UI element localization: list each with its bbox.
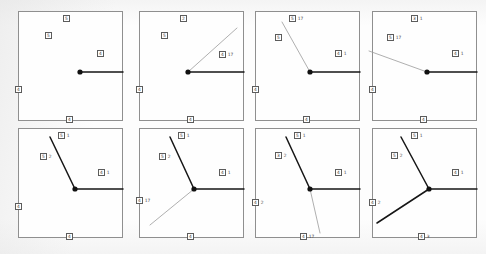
panel-6-label-top-value: 1 [187,133,190,138]
panel-6-label-inner-value: 2 [168,154,171,159]
panel-6-label-top: 51 [178,132,190,139]
panel-8-label-top: 51 [411,132,423,139]
panel-4-label-left: 4 [369,86,376,93]
panel-5-label-left: 4 [15,203,22,210]
panel-2-label-right-value: 17 [228,52,234,57]
panel-4-hub-node[interactable] [424,69,429,74]
panel-8-label-bottom-value: 3 [427,234,430,239]
panel-1-plot [19,12,122,120]
panel-8-hub-node[interactable] [426,186,431,191]
panel-1-label-top: 5 [63,15,70,22]
panel-3[interactable]: 51754144 [255,11,360,121]
panel-6-edge-down-left [150,189,194,225]
panel-5[interactable]: 51524144 [18,128,123,238]
panel-6-label-bottom: 4 [187,233,194,240]
panel-3-edge-up-left [282,22,310,72]
panel-2-label-right-box: 4 [219,51,226,58]
panel-7-label-top-value: 1 [303,133,306,138]
panel-1-label-right: 4 [97,50,104,57]
panel-8-label-inner-value: 2 [400,153,403,158]
panel-8-label-bottom-box: 4 [418,233,425,240]
panel-8-label-right-box: 4 [452,169,459,176]
panel-3-label-inner: 5 [275,34,282,41]
panel-7-label-left-box: 4 [252,199,259,206]
panel-2-plot [140,12,243,120]
panel-2-label-left: 4 [136,86,143,93]
panel-6-edge-up-left [170,137,194,189]
panel-6-label-top-box: 5 [178,132,185,139]
panel-6[interactable]: 5152414174 [139,128,244,238]
panel-1-label-inner-box: 5 [45,32,52,39]
panel-2-label-left-box: 4 [136,86,143,93]
panel-4-label-right-value: 1 [461,51,464,56]
panel-6-label-left-value: 17 [145,198,151,203]
panel-3-label-top-value: 17 [298,16,304,21]
panel-8-edge-down-left [377,189,429,223]
panel-2-label-inner-box: 5 [161,32,168,39]
panel-2-label-right: 417 [219,51,233,58]
panel-3-label-right-value: 1 [344,51,347,56]
panel-3-label-left: 4 [252,86,259,93]
panel-3-label-right: 41 [335,50,347,57]
panel-3-hub-node[interactable] [307,69,312,74]
panel-4-label-right-box: 4 [452,50,459,57]
panel-1-label-bottom: 4 [66,116,73,123]
panel-6-label-left: 417 [136,197,150,204]
panel-6-plot [140,129,243,237]
panel-7-plot [256,129,359,237]
panel-2-label-inner: 5 [161,32,168,39]
panel-3-label-right-box: 4 [335,50,342,57]
panel-6-label-inner-box: 5 [159,153,166,160]
panel-5-label-bottom-box: 4 [66,233,73,240]
panel-2-label-bottom-box: 4 [187,116,194,123]
panel-2-label-top-box: 2 [180,15,187,22]
panel-5-hub-node[interactable] [72,186,77,191]
panel-5-plot [19,129,122,237]
panel-8-label-bottom: 43 [418,233,430,240]
panel-8-label-top-box: 5 [411,132,418,139]
panel-7-label-left: 42 [252,199,264,206]
panel-3-label-top-box: 5 [289,15,296,22]
panel-5-label-right-value: 1 [107,170,110,175]
panel-6-hub-node[interactable] [191,186,196,191]
panel-1[interactable]: 55444 [18,11,123,121]
panel-5-label-inner-value: 2 [49,154,52,159]
panel-4-label-inner: 517 [387,34,401,41]
panel-6-label-left-box: 4 [136,197,143,204]
figure-canvas: 5544425417445175414431517414451524144515… [0,0,486,254]
panel-2[interactable]: 2541744 [139,11,244,121]
panel-1-label-left: 4 [15,86,22,93]
panel-2-label-bottom: 4 [187,116,194,123]
panel-7-hub-node[interactable] [307,186,312,191]
panel-3-label-bottom-box: 4 [303,116,310,123]
panel-1-label-right-box: 4 [97,50,104,57]
panel-7[interactable]: 51324142417 [255,128,360,238]
panel-5-label-inner-box: 5 [40,153,47,160]
panel-1-hub-node[interactable] [77,69,82,74]
panel-8-label-inner-box: 5 [391,152,398,159]
panel-2-hub-node[interactable] [185,69,190,74]
panel-8-label-left: 42 [369,199,381,206]
panel-3-label-left-box: 4 [252,86,259,93]
panel-8-label-right: 41 [452,169,464,176]
panel-1-label-inner: 5 [45,32,52,39]
panel-7-label-inner-box: 3 [275,152,282,159]
panel-5-label-top: 51 [58,132,70,139]
panel-8-label-inner: 52 [391,152,403,159]
panel-4-label-right: 41 [452,50,464,57]
panel-6-label-right: 41 [219,169,231,176]
panel-5-label-top-box: 5 [58,132,65,139]
panel-5-label-bottom: 4 [66,233,73,240]
panel-8-plot [373,129,476,237]
panel-8[interactable]: 5152414243 [372,128,477,238]
panel-1-label-top-box: 5 [63,15,70,22]
panel-7-label-right: 41 [335,169,347,176]
panel-5-label-left-box: 4 [15,203,22,210]
panel-7-edge-down-right [310,189,320,233]
panel-4[interactable]: 315174144 [372,11,477,121]
panel-3-label-top: 517 [289,15,303,22]
panel-5-edge-up-left [50,137,75,189]
panel-8-label-left-box: 4 [369,199,376,206]
panel-7-label-inner: 32 [275,152,287,159]
panel-1-label-bottom-box: 4 [66,116,73,123]
